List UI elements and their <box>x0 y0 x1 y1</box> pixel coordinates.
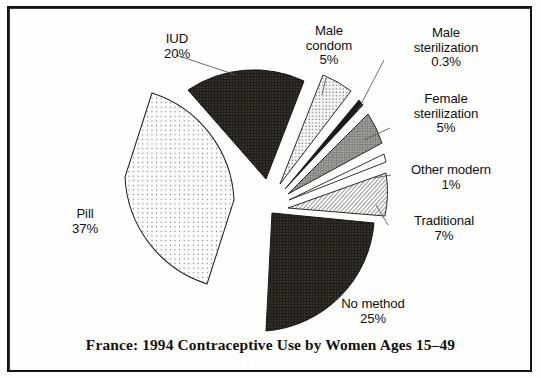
page-bleed-text <box>16 373 436 378</box>
slice-label-no-method: No method 25% <box>313 297 433 326</box>
pie-slices <box>125 70 388 331</box>
slice-label-male-condom: Male condom 5% <box>281 24 377 68</box>
slice-label-traditional: Traditional 7% <box>386 214 502 243</box>
chart-title: France: 1994 Contraceptive Use by Women … <box>0 336 541 354</box>
slice-label-other-modern: Other modern 1% <box>386 163 516 192</box>
pie-chart-figure: IUD 20% Male condom 5% Male sterilizatio… <box>0 0 541 378</box>
slice-label-female-sterilization: Female sterilization 5% <box>385 92 507 136</box>
slice-label-male-sterilization: Male sterilization 0.3% <box>385 26 507 70</box>
slice-label-pill: Pill 37% <box>48 207 122 236</box>
slice-label-iud: IUD 20% <box>123 32 231 61</box>
leader-line-male-sterilization <box>357 60 384 112</box>
